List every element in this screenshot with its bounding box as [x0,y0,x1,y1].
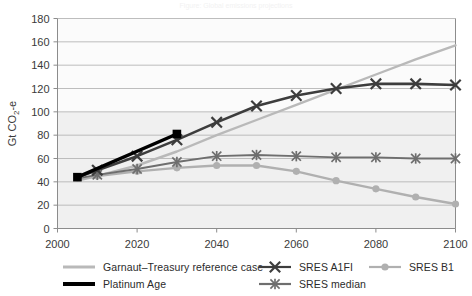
x-tick-label: 2000 [45,238,69,250]
y-tick-label: 100 [31,106,49,118]
x-tick-label: 2060 [284,238,308,250]
y-tick-label: 120 [31,83,49,95]
plot-background-band [58,19,456,229]
x-tick-label: 2100 [443,238,467,250]
legend-item-a1fi: SRES A1FI [258,258,353,275]
legend-item-platinum: Platinum Age [62,275,166,292]
x-tick-label: 2080 [364,238,388,250]
legend-swatch-b1-circle-icon [368,260,402,274]
legend-item-b1: SRES B1 [368,258,454,275]
y-tick-label: 180 [31,13,49,25]
legend-swatch-median-star-icon [258,277,292,291]
legend-item-garnaut: Garnaut–Treasury reference case [62,258,263,275]
y-tick-label: 40 [37,176,49,188]
y-tick-label: 140 [31,59,49,71]
x-tick-label: 2040 [204,238,228,250]
legend-label-platinum: Platinum Age [103,278,166,290]
legend-label-b1: SRES B1 [409,261,454,273]
chart-legend: Garnaut–Treasury reference case Platinum… [0,256,472,296]
y-tick-label: 20 [37,199,49,211]
legend-label-garnaut: Garnaut–Treasury reference case [103,261,263,273]
y-axis-title: Gt CO2-e [6,101,21,146]
chart-figure: Figure: Global emissions projections 020… [0,0,472,296]
y-tick-label: 160 [31,36,49,48]
legend-label-median: SRES median [299,278,366,290]
y-tick-label: 0 [43,223,49,235]
y-axis-label: Gt CO2-e [6,101,21,146]
plot-area: 020406080100120140160180 200020202040206… [0,0,472,258]
legend-swatch-platinum-line-icon [62,277,96,291]
x-tick-label: 2020 [125,238,149,250]
y-axis-tick-labels: 020406080100120140160180 [31,13,49,235]
legend-swatch-a1fi-cross-icon [258,260,292,274]
legend-swatch-garnaut-line-icon [62,260,96,274]
legend-item-median: SRES median [258,275,366,292]
legend-label-a1fi: SRES A1FI [299,261,353,273]
y-tick-label: 80 [37,129,49,141]
x-axis-tick-labels: 200020202040206020802100 [45,238,467,250]
y-tick-label: 60 [37,153,49,165]
